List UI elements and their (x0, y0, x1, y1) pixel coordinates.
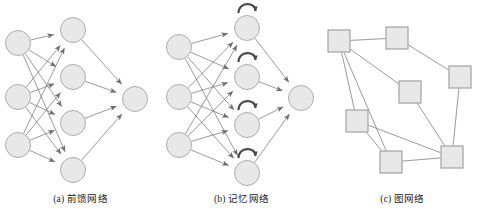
panel-c-caption: (c) 图网络 (322, 192, 483, 206)
node-c-n-3[interactable] (449, 66, 471, 88)
panel-feedforward-network: (a) 前馈网络 (0, 0, 161, 218)
node-a-in-2[interactable] (6, 85, 31, 110)
node-layer (6, 18, 148, 183)
edge-c-n-4-to-c-n-7 (417, 103, 444, 145)
edge-b-hid-1-to-b-out-1 (255, 38, 289, 82)
neural-network-figure: (a) 前馈网络 (b) 记忆网络 (c) 图网络 (0, 0, 485, 218)
edge-b-hid-2-to-b-out-1 (259, 82, 282, 91)
edge-c-n-2-to-c-n-3 (408, 45, 448, 70)
node-b-in-3[interactable] (167, 133, 192, 158)
self-loop-arc-b-hid-2 (239, 53, 256, 62)
node-c-n-1[interactable] (328, 30, 350, 52)
panel-b-caption: (b) 记忆网络 (161, 192, 322, 206)
edge-b-in-1-to-b-hid-2 (191, 52, 229, 69)
edge-a-in-1-to-a-hid-2 (29, 50, 56, 67)
node-b-in-1[interactable] (167, 35, 192, 60)
self-loop-arc-b-hid-3 (239, 101, 256, 110)
edge-a-hid-3-to-a-out-1 (85, 106, 116, 118)
node-a-in-3[interactable] (6, 133, 31, 158)
node-b-hid-1[interactable] (235, 16, 260, 41)
edge-a-in-1-to-a-hid-4 (23, 55, 65, 152)
edge-c-n-3-to-c-n-7 (453, 89, 459, 146)
panel-graph-network: (c) 图网络 (322, 0, 483, 218)
self-loop-arc-b-hid-4 (239, 149, 256, 158)
node-c-n-4[interactable] (399, 81, 421, 103)
self-loop-arc-b-hid-1 (239, 4, 256, 13)
edge-c-n-1-to-c-n-2 (351, 39, 386, 41)
edge-layer (23, 35, 122, 162)
edge-b-in-2-to-b-hid-4 (188, 107, 234, 158)
node-a-hid-1[interactable] (61, 18, 86, 43)
node-c-n-6[interactable] (380, 151, 402, 173)
node-c-n-2[interactable] (386, 27, 408, 49)
node-a-in-1[interactable] (6, 31, 31, 56)
node-a-out-1[interactable] (123, 87, 148, 112)
node-b-hid-2[interactable] (235, 65, 260, 90)
edge-a-in-1-to-a-hid-1 (31, 35, 54, 40)
node-a-hid-3[interactable] (61, 111, 86, 136)
node-c-n-5[interactable] (346, 110, 368, 132)
panel-b-diagram (161, 0, 322, 190)
edge-c-n-5-to-c-n-7 (368, 125, 440, 152)
node-b-hid-4[interactable] (235, 161, 260, 186)
edge-a-hid-4-to-a-out-1 (82, 114, 122, 160)
node-b-hid-3[interactable] (235, 113, 260, 138)
edge-a-in-2-to-a-hid-2 (30, 84, 54, 93)
panel-a-caption: (a) 前馈网络 (0, 192, 161, 206)
panel-c-diagram (322, 0, 483, 190)
edge-a-in-3-to-a-hid-4 (30, 150, 55, 161)
node-c-n-7[interactable] (441, 146, 463, 168)
node-b-in-2[interactable] (167, 85, 192, 110)
edge-b-in-3-to-b-hid-2 (188, 91, 233, 136)
node-layer (167, 16, 314, 186)
node-a-hid-4[interactable] (61, 158, 86, 183)
edge-a-hid-1-to-a-out-1 (82, 40, 122, 84)
panel-memory-network: (b) 记忆网络 (161, 0, 322, 218)
node-a-hid-2[interactable] (61, 65, 86, 90)
edge-a-hid-2-to-a-out-1 (85, 81, 116, 92)
edge-c-n-6-to-c-n-7 (403, 158, 441, 161)
edge-a-in-3-to-a-hid-1 (24, 48, 65, 133)
node-layer (328, 27, 471, 173)
edge-b-in-3-to-b-hid-4 (191, 150, 228, 165)
edge-b-in-3-to-b-hid-1 (186, 45, 237, 133)
edge-b-hid-4-to-b-out-1 (255, 114, 290, 162)
edge-a-in-1-to-a-hid-3 (25, 54, 61, 107)
edge-b-in-3-to-b-hid-3 (191, 131, 227, 142)
edge-b-in-1-to-b-hid-1 (192, 33, 228, 43)
edge-a-in-3-to-a-hid-3 (30, 130, 54, 140)
edge-c-n-1-to-c-n-4 (350, 49, 398, 84)
edge-c-n-1-to-c-n-6 (344, 52, 386, 150)
edge-c-n-1-to-c-n-5 (342, 52, 355, 109)
edge-b-hid-3-to-b-out-1 (259, 107, 283, 119)
panel-a-diagram (0, 0, 161, 190)
edge-layer (185, 33, 289, 165)
node-b-out-1[interactable] (289, 86, 314, 111)
